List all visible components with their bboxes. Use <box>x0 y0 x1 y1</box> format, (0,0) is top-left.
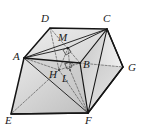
geometry-diagram-svg <box>0 0 141 130</box>
vertex-label-M: M <box>58 32 67 43</box>
geometry-figure: A B C D E F G H L M <box>0 0 141 130</box>
vertex-label-G: G <box>128 62 136 73</box>
vertex-dot-H <box>58 69 60 71</box>
vertex-label-E: E <box>5 115 12 126</box>
vertex-label-D: D <box>41 13 49 24</box>
vertex-label-B: B <box>83 59 90 70</box>
vertex-dot-L <box>69 69 71 71</box>
vertex-label-L: L <box>62 73 68 84</box>
vertex-dot-M <box>67 47 69 49</box>
vertex-label-C: C <box>103 13 110 24</box>
edge-E-F <box>11 113 88 114</box>
vertex-label-H: H <box>49 69 57 80</box>
vertex-label-F: F <box>85 115 92 126</box>
vertex-label-A: A <box>13 51 20 62</box>
